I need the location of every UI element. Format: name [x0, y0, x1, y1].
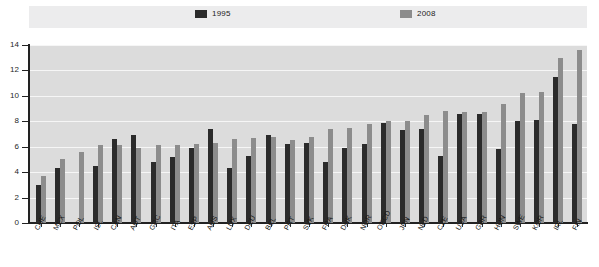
bar-2008-hun: [501, 104, 506, 224]
x-axis-label-cell: MEX: [50, 224, 69, 267]
bar-group: [434, 45, 453, 223]
y-axis-tick-label: 6: [0, 143, 19, 151]
bar-group: [529, 45, 548, 223]
bar-2008-kor: [539, 92, 544, 223]
bar-group: [338, 45, 357, 223]
bar-2008-irl: [558, 58, 563, 223]
x-axis-tick-label: ITA: [169, 218, 181, 231]
bar-group: [146, 45, 165, 223]
bar-group: [89, 45, 108, 223]
bar-group: [204, 45, 223, 223]
y-axis-tick-label: 4: [0, 168, 19, 176]
x-axis-label-cell: OECD: [376, 224, 395, 267]
x-axis-label-cell: SVK: [299, 224, 318, 267]
bar-group: [50, 45, 69, 223]
bar-group: [453, 45, 472, 223]
x-axis-label-cell: POL: [69, 224, 88, 267]
x-axis-label-cell: IRL: [549, 224, 568, 267]
y-axis-tick: [22, 70, 29, 71]
chart-root: 1995 2008 02468101214 CHEMEXPOLISLCANAUT…: [0, 0, 599, 267]
y-axis-tick: [22, 223, 29, 224]
y-axis-tick: [22, 172, 29, 173]
bar-2008-fra: [328, 129, 333, 223]
bar-group: [414, 45, 433, 223]
bar-2008-can: [117, 145, 122, 223]
bar-group: [376, 45, 395, 223]
bar-2008-ita: [175, 145, 180, 223]
y-axis-tick: [22, 147, 29, 148]
x-axis-labels: CHEMEXPOLISLCANAUTGRCITAESPAUSLUXDEUBELP…: [31, 224, 587, 267]
bar-2008-aus: [213, 143, 218, 223]
x-axis-label-cell: KOR: [529, 224, 548, 267]
bar-2008-esp: [194, 144, 199, 223]
bar-group: [280, 45, 299, 223]
bar-2008-lux: [232, 139, 237, 223]
bar-group: [242, 45, 261, 223]
bar-2008-bel: [271, 137, 276, 223]
x-axis-label-cell: CZE: [434, 224, 453, 267]
x-axis-label-cell: NOR: [357, 224, 376, 267]
x-axis-tick-label: ISL: [93, 218, 105, 231]
legend-label-2008: 2008: [417, 10, 436, 18]
y-axis-tick-label: 0: [0, 219, 19, 227]
x-axis-label-cell: DNK: [338, 224, 357, 267]
x-axis-label-cell: GRC: [146, 224, 165, 267]
bar-2008-fin: [577, 50, 582, 223]
bar-2008-jpn: [405, 121, 410, 223]
y-axis-tick-label: 14: [0, 41, 19, 49]
bar-group: [549, 45, 568, 223]
x-axis-label-cell: ISL: [89, 224, 108, 267]
chart-legend: 1995 2008: [29, 6, 587, 28]
bar-group: [491, 45, 510, 223]
y-axis-tick: [22, 96, 29, 97]
bar-series-container: [31, 45, 587, 223]
bar-group: [319, 45, 338, 223]
bar-2008-usa: [462, 112, 467, 223]
x-axis-label-cell: CHE: [31, 224, 50, 267]
bar-group: [261, 45, 280, 223]
x-axis-label-cell: BEL: [261, 224, 280, 267]
bar-group: [127, 45, 146, 223]
bar-group: [299, 45, 318, 223]
legend-item-2008: 2008: [400, 10, 436, 18]
bar-2008-isl: [98, 145, 103, 223]
bar-2008-nld: [424, 115, 429, 223]
x-axis-label-cell: AUS: [204, 224, 223, 267]
legend-swatch-2008: [400, 10, 412, 18]
bar-2008-deu: [251, 138, 256, 223]
x-axis-label-cell: SWE: [510, 224, 529, 267]
x-axis-tick-label: FIN: [571, 218, 583, 232]
bar-group: [568, 45, 587, 223]
bar-group: [31, 45, 50, 223]
bar-2008-oecd: [386, 121, 391, 223]
bar-2008-nor: [367, 124, 372, 223]
y-axis-tick-label: 2: [0, 194, 19, 202]
bar-group: [223, 45, 242, 223]
x-axis-label-cell: FRA: [319, 224, 338, 267]
bar-2008-aut: [136, 148, 141, 223]
x-axis-label-cell: HUN: [491, 224, 510, 267]
x-axis-label-cell: ESP: [184, 224, 203, 267]
bar-2008-prt: [290, 140, 295, 223]
bar-2008-svk: [309, 137, 314, 223]
bar-group: [69, 45, 88, 223]
bar-2008-dnk: [347, 128, 352, 223]
bar-group: [472, 45, 491, 223]
bar-2008-swe: [520, 93, 525, 223]
legend-swatch-1995: [195, 10, 207, 18]
legend-item-1995: 1995: [195, 10, 231, 18]
bar-2008-pol: [79, 152, 84, 223]
x-axis-tick-label: IRL: [552, 218, 564, 232]
x-axis-label-cell: AUT: [127, 224, 146, 267]
bar-2008-cze: [443, 111, 448, 223]
x-axis-label-cell: FIN: [568, 224, 587, 267]
x-axis-label-cell: JPN: [395, 224, 414, 267]
bar-group: [395, 45, 414, 223]
x-axis-label-cell: NLD: [414, 224, 433, 267]
y-axis-tick-label: 8: [0, 117, 19, 125]
y-axis-tick: [22, 198, 29, 199]
bar-group: [108, 45, 127, 223]
x-axis-label-cell: ITA: [165, 224, 184, 267]
bar-2008-grc: [156, 145, 161, 223]
y-axis-tick: [22, 121, 29, 122]
